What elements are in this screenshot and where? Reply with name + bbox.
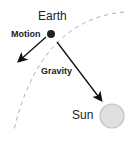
motion-arrow xyxy=(19,37,46,61)
sun-label: Sun xyxy=(72,108,93,122)
orbit-diagram: Earth Motion Gravity Sun xyxy=(0,0,132,142)
sun-icon xyxy=(100,104,124,128)
earth-label: Earth xyxy=(38,9,67,23)
gravity-label: Gravity xyxy=(41,66,72,76)
earth-icon xyxy=(47,30,55,38)
motion-label: Motion xyxy=(11,29,41,39)
